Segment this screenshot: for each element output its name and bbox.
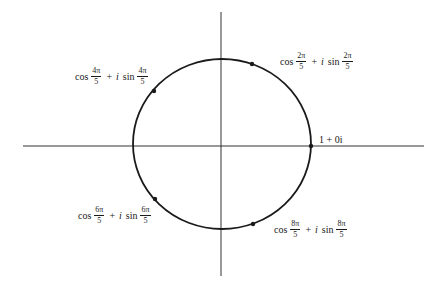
plus-sign: + bbox=[106, 72, 112, 82]
plus-sign: + bbox=[109, 211, 115, 221]
cos-text: cos bbox=[274, 225, 287, 235]
imaginary-unit: i bbox=[119, 211, 122, 221]
root-point-k0 bbox=[309, 144, 313, 148]
plus-sign: + bbox=[311, 57, 317, 67]
fraction: 4π5 bbox=[137, 67, 147, 86]
label-root-k3: cos 6π5 + i sin 6π5 bbox=[76, 206, 152, 225]
cos-text: cos bbox=[78, 211, 91, 221]
sin-text: sin bbox=[328, 57, 340, 67]
fraction: 2π5 bbox=[342, 52, 352, 71]
fraction: 8π5 bbox=[336, 220, 346, 239]
label-root-k1: cos 2π5 + i sin 2π5 bbox=[278, 52, 354, 71]
label-root-k0: 1 + 0i bbox=[319, 135, 342, 145]
label-text: 1 + 0i bbox=[319, 135, 342, 145]
fraction: 4π5 bbox=[91, 67, 101, 86]
label-root-k4: cos 8π5 + i sin 8π5 bbox=[272, 220, 348, 239]
sin-text: sin bbox=[123, 72, 135, 82]
fraction: 8π5 bbox=[290, 220, 300, 239]
label-root-k2: cos 4π5 + i sin 4π5 bbox=[73, 67, 149, 86]
unit-circle bbox=[133, 59, 311, 229]
cos-text: cos bbox=[280, 57, 293, 67]
imaginary-unit: i bbox=[315, 225, 318, 235]
plus-sign: + bbox=[305, 225, 311, 235]
imaginary-unit: i bbox=[116, 72, 119, 82]
root-point-k4 bbox=[251, 222, 255, 226]
root-point-k2 bbox=[152, 89, 156, 93]
root-point-k3 bbox=[153, 197, 157, 201]
imaginary-unit: i bbox=[321, 57, 324, 67]
fraction: 6π5 bbox=[94, 206, 104, 225]
sin-text: sin bbox=[126, 211, 138, 221]
root-point-k1 bbox=[250, 62, 254, 66]
fraction: 2π5 bbox=[296, 52, 306, 71]
fraction: 6π5 bbox=[140, 206, 150, 225]
sin-text: sin bbox=[322, 225, 334, 235]
cos-text: cos bbox=[75, 72, 88, 82]
complex-plane bbox=[0, 0, 441, 287]
